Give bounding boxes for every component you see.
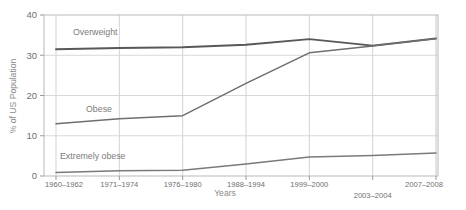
x-tick-label: 1960–1962 xyxy=(45,180,83,189)
chart-container: 010203040 1960–19621971–19741976–1980198… xyxy=(0,0,466,210)
y-tick-label: 30 xyxy=(26,50,37,61)
y-tick-label: 10 xyxy=(26,130,37,141)
x-tick-label: 2007–2008 xyxy=(405,180,443,189)
series-label: Obese xyxy=(86,104,112,114)
y-tick-label: 40 xyxy=(26,9,37,20)
y-axis-title: % of US Population xyxy=(8,59,18,134)
x-tick-label: 1999–2000 xyxy=(290,180,328,189)
y-axis: 010203040 xyxy=(26,9,44,181)
x-axis: 1960–19621971–19741976–19801988–19941999… xyxy=(45,176,443,200)
y-tick-label: 0 xyxy=(32,170,37,181)
line-chart: 010203040 1960–19621971–19741976–1980198… xyxy=(0,0,466,210)
x-tick-label: 1971–1974 xyxy=(100,180,138,189)
series-label: Extremely obese xyxy=(60,151,126,161)
y-tick-label: 20 xyxy=(26,90,37,101)
x-tick-label: 2003–2004 xyxy=(354,191,392,200)
x-axis-title: Years xyxy=(214,188,236,198)
x-tick-label: 1976–1980 xyxy=(164,180,202,189)
series-label: Overweight xyxy=(73,27,118,37)
